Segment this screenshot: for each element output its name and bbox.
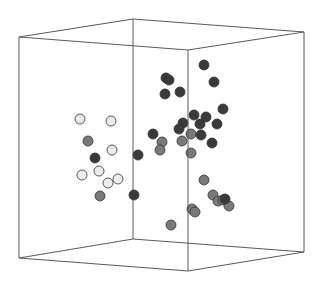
box-edge [133, 239, 304, 252]
data-point-group-dark [160, 89, 170, 99]
data-point-group-dark [175, 87, 185, 97]
data-point-group-dark [164, 75, 174, 85]
data-point-group-dark [148, 129, 158, 139]
data-point-group-dark [90, 153, 100, 163]
data-point-group-dark [129, 190, 139, 200]
data-point-group-dark [212, 119, 222, 129]
data-point-group-medium [95, 191, 105, 201]
data-point-group-medium [190, 207, 200, 217]
data-point-group-medium [199, 175, 209, 185]
box-edge [133, 19, 304, 32]
data-point-group-light [94, 166, 104, 176]
data-point-group-medium [155, 145, 165, 155]
data-point-group-dark [199, 60, 209, 70]
data-point-group-light [106, 116, 116, 126]
data-point-group-dark [220, 194, 230, 204]
data-point-group-light [75, 114, 85, 124]
box-edge [188, 252, 304, 271]
data-point-group-dark [196, 130, 206, 140]
data-point-group-dark [207, 138, 217, 148]
box-edge [19, 37, 188, 50]
data-point-group-dark [209, 77, 219, 87]
data-point-group-dark [133, 150, 143, 160]
box-edge [19, 258, 188, 271]
data-point-group-light [113, 174, 123, 184]
data-point-group-medium [166, 220, 176, 230]
data-point-group-medium [177, 136, 187, 146]
data-point-group-light [107, 145, 117, 155]
data-point-group-dark [174, 124, 184, 134]
box-edge [188, 32, 304, 50]
data-point-group-dark [189, 110, 199, 120]
data-points [75, 60, 234, 230]
data-point-group-medium [83, 136, 93, 146]
box-edge [19, 239, 133, 258]
box-edge [19, 19, 133, 37]
data-point-group-light [103, 178, 113, 188]
scatter-3d-chart [0, 0, 318, 285]
data-point-group-dark [195, 119, 205, 129]
data-point-group-light [77, 170, 87, 180]
data-point-group-dark [218, 104, 228, 114]
